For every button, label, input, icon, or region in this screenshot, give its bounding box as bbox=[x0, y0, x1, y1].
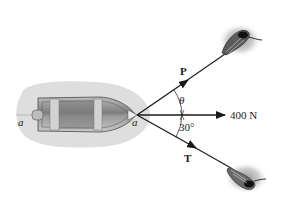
force-P bbox=[137, 45, 238, 115]
stern-label: a bbox=[18, 117, 24, 128]
tugboat-lower-icon bbox=[224, 162, 268, 194]
apex-label: a bbox=[132, 117, 138, 128]
force-diagram: a a P 400 N T θ 30° bbox=[0, 0, 284, 224]
angle-theta-label: θ bbox=[179, 95, 184, 106]
force-resultant-label: 400 N bbox=[230, 110, 257, 121]
boat-icon bbox=[32, 97, 137, 132]
angle-30-label: 30° bbox=[179, 122, 194, 133]
force-P-label: P bbox=[180, 66, 187, 77]
force-T-label: T bbox=[184, 153, 191, 164]
tugboat-upper-icon bbox=[218, 23, 262, 57]
